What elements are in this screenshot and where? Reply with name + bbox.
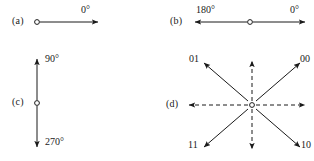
- angle-label-0-a: 0°: [81, 4, 90, 15]
- angle-label-90-c: 90°: [45, 53, 59, 64]
- phase-constellation-figure: (a) (b) (c) (d) 0° 180° 0° 90° 270° 01 0…: [0, 0, 314, 161]
- arrow-01-d: [204, 63, 248, 101]
- panel-label-b: (b): [170, 15, 182, 26]
- panel-label-a: (a): [12, 15, 24, 26]
- panel-a-graphics: [35, 20, 98, 25]
- panel-c-graphics: [35, 59, 40, 147]
- origin-marker-c: [35, 101, 40, 106]
- arrow-00-d: [256, 63, 300, 101]
- arrow-11-d: [204, 109, 248, 147]
- angle-label-270-c: 270°: [45, 136, 64, 147]
- origin-marker-d: [250, 103, 255, 108]
- angle-label-180-b: 180°: [196, 4, 215, 15]
- code-label-11-d: 11: [188, 139, 198, 150]
- code-label-00-d: 00: [300, 53, 310, 64]
- angle-label-0-b: 0°: [290, 4, 299, 15]
- panel-d-graphics: [189, 61, 305, 149]
- panel-label-c: (c): [12, 96, 24, 107]
- panel-b-graphics: [195, 20, 305, 25]
- origin-marker-a: [35, 20, 40, 25]
- arrow-10-d: [256, 109, 300, 147]
- panel-label-d: (d): [166, 98, 178, 109]
- code-label-10-d: 10: [301, 139, 311, 150]
- code-label-01-d: 01: [189, 53, 199, 64]
- origin-marker-b: [248, 20, 253, 25]
